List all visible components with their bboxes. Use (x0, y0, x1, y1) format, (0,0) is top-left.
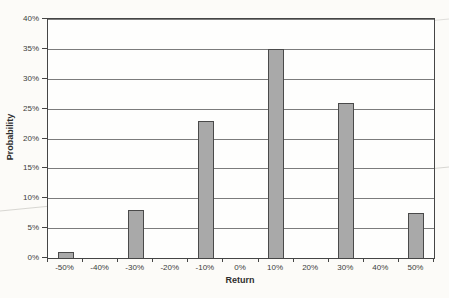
x-tick-label: 50% (398, 263, 433, 272)
x-tick-label: -40% (82, 263, 117, 272)
x-tick-mark (187, 258, 188, 262)
y-tick-mark (42, 48, 47, 49)
x-tick-mark (433, 258, 434, 262)
gridline (48, 49, 434, 50)
y-tick-label: 5% (9, 223, 39, 232)
y-tick-label: 35% (9, 44, 39, 53)
x-tick-mark (82, 258, 83, 262)
y-tick-mark (42, 197, 47, 198)
bar-30pct (338, 103, 354, 258)
gridline (48, 228, 434, 229)
x-tick-mark (328, 258, 329, 262)
y-tick-mark (42, 78, 47, 79)
x-tick-label: 10% (258, 263, 293, 272)
y-tick-label: 30% (9, 74, 39, 83)
bar--50pct (58, 252, 74, 258)
gridline (48, 109, 434, 110)
y-tick-label: 40% (9, 14, 39, 23)
gridline (48, 19, 434, 20)
y-tick-mark (42, 108, 47, 109)
bar--10pct (198, 121, 214, 258)
y-tick-label: 0% (9, 253, 39, 262)
plot-area (47, 18, 435, 259)
x-tick-mark (293, 258, 294, 262)
x-tick-mark (363, 258, 364, 262)
gridline (48, 198, 434, 199)
y-tick-mark (42, 167, 47, 168)
x-tick-mark (117, 258, 118, 262)
x-tick-mark (47, 258, 48, 262)
x-tick-label: 40% (363, 263, 398, 272)
x-tick-label: -20% (152, 263, 187, 272)
y-tick-label: 10% (9, 193, 39, 202)
gridline (48, 168, 434, 169)
x-tick-mark (398, 258, 399, 262)
y-tick-mark (42, 227, 47, 228)
bar-50pct (408, 213, 424, 258)
x-tick-label: -10% (187, 263, 222, 272)
y-tick-mark (42, 18, 47, 19)
x-tick-label: -50% (47, 263, 82, 272)
scanned-page: Probability 0%5%10%15%20%25%30%35%40%-50… (0, 0, 449, 298)
bar-10pct (268, 49, 284, 258)
x-tick-label: 30% (328, 263, 363, 272)
gridline (48, 79, 434, 80)
y-tick-label: 25% (9, 104, 39, 113)
bar--30pct (128, 210, 144, 258)
return-probability-histogram: Probability 0%5%10%15%20%25%30%35%40%-50… (0, 0, 449, 298)
x-axis-title: Return (47, 275, 433, 285)
x-tick-mark (152, 258, 153, 262)
x-tick-mark (258, 258, 259, 262)
x-tick-label: 0% (222, 263, 257, 272)
x-tick-label: -30% (117, 263, 152, 272)
y-tick-label: 15% (9, 163, 39, 172)
gridline (48, 139, 434, 140)
y-tick-mark (42, 138, 47, 139)
x-tick-mark (222, 258, 223, 262)
y-tick-label: 20% (9, 134, 39, 143)
x-tick-label: 20% (293, 263, 328, 272)
